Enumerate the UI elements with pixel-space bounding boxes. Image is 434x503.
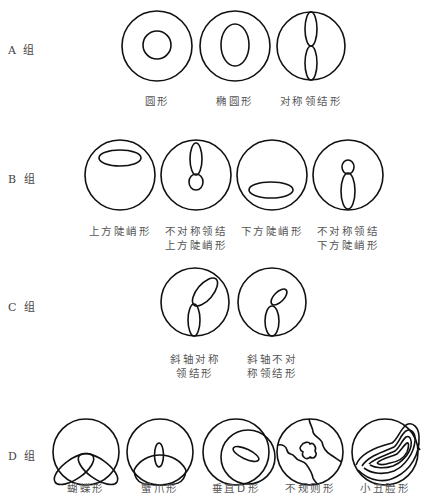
label-line-1: 不对称领结 (317, 224, 380, 238)
shape-label-skewed-asymmetric: 斜轴不对 称领结形 (247, 352, 297, 380)
label-line-2: 领结形 (170, 366, 220, 380)
label-line-1: 不对称领结 (165, 224, 228, 238)
label-line-2: 称领结形 (247, 366, 297, 380)
group-label-b: B 组 (8, 170, 37, 186)
shape-d4-irregular (277, 419, 343, 485)
shape-d1-butterfly (49, 419, 122, 490)
shape-b4-asymmetric-bowtie-inferior-steep (313, 140, 383, 210)
shape-label-clown-face: 小丑脸形 (360, 481, 410, 495)
label-line-2: 下方陡峭形 (317, 238, 380, 252)
shape-d5-clown-face (352, 419, 420, 485)
shape-label-symmetric-bowtie: 对称领结形 (280, 94, 343, 108)
label-line-1: 斜轴不对 (247, 352, 297, 366)
shape-d3-vertical-d (203, 419, 275, 485)
shape-b3-inferior-steep (237, 140, 307, 210)
shape-a1-round (122, 11, 192, 81)
shape-label-crab-claw: 蟹爪形 (141, 481, 179, 495)
shape-label-skewed-symmetric: 斜轴对称 领结形 (170, 352, 220, 380)
group-label-d: D 组 (8, 447, 37, 463)
shape-a2-oval (200, 11, 270, 81)
shape-c1-skewed-symmetric-bowtie (161, 268, 229, 336)
group-label-c: C 组 (8, 298, 37, 314)
shape-label-inferior-steep: 下方陡峭形 (241, 224, 304, 238)
shape-label-irregular: 不规则形 (285, 481, 335, 495)
shape-label-asym-bowtie-inferior: 不对称领结 下方陡峭形 (317, 224, 380, 252)
shape-c2-skewed-asymmetric-bowtie (238, 268, 306, 336)
shape-label-asym-bowtie-superior: 不对称领结 上方陡峭形 (165, 224, 228, 252)
shape-label-round: 圆形 (145, 94, 170, 108)
shape-label-superior-steep: 上方陡峭形 (89, 224, 152, 238)
shape-b2-asymmetric-bowtie-superior-steep (161, 140, 231, 210)
shape-d2-crab-claw (127, 419, 193, 485)
shape-a3-symmetric-bowtie (277, 12, 345, 80)
shape-label-oval: 椭圆形 (216, 94, 254, 108)
shape-b1-superior-steep (85, 140, 155, 210)
label-line-1: 斜轴对称 (170, 352, 220, 366)
label-line-2: 上方陡峭形 (165, 238, 228, 252)
group-label-a: A 组 (8, 41, 36, 57)
shape-label-vertical-d: 垂直D形 (212, 481, 260, 495)
shape-label-butterfly: 蝴蝶形 (67, 481, 105, 495)
